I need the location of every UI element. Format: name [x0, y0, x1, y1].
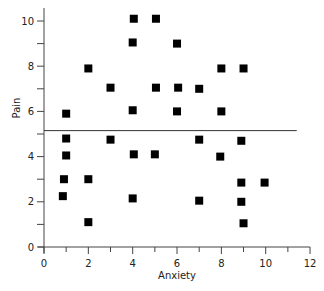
data-point: [152, 15, 160, 23]
data-point: [173, 107, 181, 115]
data-point: [107, 84, 115, 92]
data-point: [107, 136, 115, 144]
x-tick-label: 2: [85, 258, 91, 269]
x-tick-label: 6: [174, 258, 180, 269]
data-point: [62, 151, 70, 159]
x-tick-label: 0: [41, 258, 47, 269]
data-point: [60, 175, 68, 183]
data-point: [261, 179, 269, 187]
data-point: [174, 84, 182, 92]
data-point: [240, 64, 248, 72]
data-point: [195, 197, 203, 205]
data-point: [240, 219, 248, 227]
y-tick-label: 6: [28, 106, 34, 117]
data-point: [216, 153, 224, 161]
data-point: [195, 85, 203, 93]
y-tick-label: 0: [28, 242, 34, 253]
x-tick-label: 4: [129, 258, 135, 269]
y-tick-label: 4: [28, 151, 34, 162]
data-point: [152, 84, 160, 92]
data-point: [62, 135, 70, 143]
data-point: [130, 150, 138, 158]
data-point: [129, 194, 137, 202]
data-point: [84, 218, 92, 226]
x-tick-label: 8: [218, 258, 224, 269]
data-point: [237, 198, 245, 206]
data-point: [129, 38, 137, 46]
data-point: [84, 64, 92, 72]
x-tick-label: 12: [304, 258, 317, 269]
data-point: [130, 15, 138, 23]
data-point: [59, 192, 67, 200]
data-point: [237, 137, 245, 145]
data-point: [62, 110, 70, 118]
data-point: [84, 175, 92, 183]
data-points: [59, 15, 269, 228]
y-tick-label: 8: [28, 61, 34, 72]
data-point: [217, 64, 225, 72]
scatter-chart: 0246810120246810 Anxiety Pain: [0, 0, 324, 291]
data-point: [151, 150, 159, 158]
y-tick-label: 10: [21, 16, 34, 27]
x-axis-label: Anxiety: [158, 270, 196, 281]
data-point: [217, 107, 225, 115]
data-point: [173, 40, 181, 48]
data-point: [129, 106, 137, 114]
y-tick-label: 2: [28, 196, 34, 207]
y-axis-label: Pain: [11, 98, 22, 119]
data-point: [237, 179, 245, 187]
x-tick-label: 10: [259, 258, 272, 269]
data-point: [195, 136, 203, 144]
